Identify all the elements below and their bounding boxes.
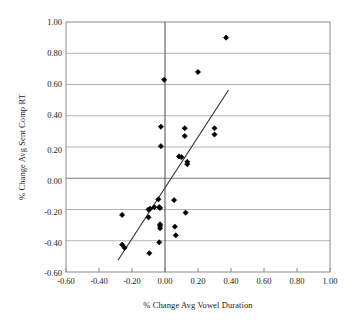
data-point — [173, 233, 178, 238]
data-point — [182, 133, 187, 138]
data-point — [212, 132, 217, 137]
plot-area — [0, 0, 353, 325]
data-point — [120, 212, 125, 217]
data-point — [183, 210, 188, 215]
data-points — [120, 35, 229, 256]
data-point — [195, 69, 200, 74]
data-point — [158, 144, 163, 149]
data-point — [158, 124, 163, 129]
data-point — [162, 77, 167, 82]
data-point — [172, 224, 177, 229]
data-point — [147, 251, 152, 256]
data-point — [223, 35, 228, 40]
data-point — [212, 126, 217, 131]
scatter-chart: % Change Avg Sent Comp RT % Change Avg V… — [0, 0, 353, 325]
gridlines — [66, 53, 330, 241]
x-tick-marks — [66, 268, 330, 272]
data-point — [182, 126, 187, 131]
data-point — [171, 198, 176, 203]
